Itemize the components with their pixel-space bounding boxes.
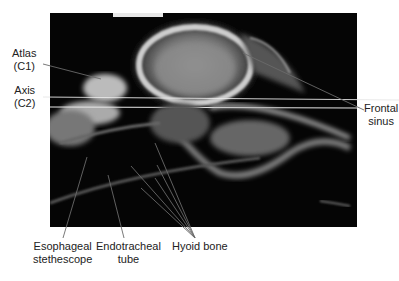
label-frontal-sinus: Frontal sinus xyxy=(364,102,398,128)
label-esophageal-stethescope: Esophageal stethescope xyxy=(33,240,92,266)
radiograph-image xyxy=(50,13,357,227)
label-endotracheal-tube: Endotracheal tube xyxy=(96,240,161,266)
radiograph-graphic xyxy=(50,13,357,227)
label-atlas: Atlas (C1) xyxy=(12,47,36,73)
label-axis: Axis (C2) xyxy=(14,84,35,110)
label-hyoid-bone: Hyoid bone xyxy=(172,240,228,253)
